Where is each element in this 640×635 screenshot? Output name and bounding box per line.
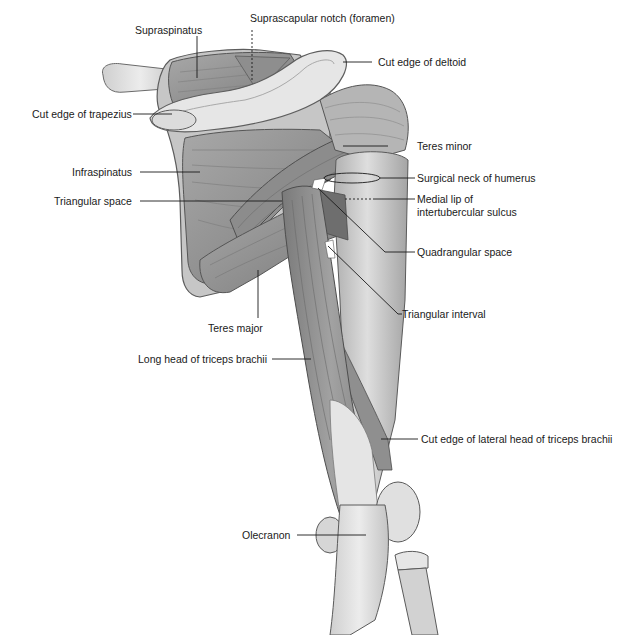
label-medial-lip-line1: Medial lip of [417,193,473,205]
label-infraspinatus: Infraspinatus [72,166,132,178]
label-cut-edge-deltoid: Cut edge of deltoid [378,56,466,68]
label-teres-major: Teres major [208,322,263,334]
label-surgical-neck: Surgical neck of humerus [417,172,535,184]
label-long-head-triceps: Long head of triceps brachii [138,353,267,365]
label-supraspinatus: Supraspinatus [135,24,202,36]
label-cut-edge-lateral-head: Cut edge of lateral head of triceps brac… [421,433,612,445]
label-triangular-interval: Triangular interval [402,308,486,320]
anatomy-illustration [0,0,640,635]
label-quadrangular-space: Quadrangular space [417,246,512,258]
label-cut-edge-trapezius: Cut edge of trapezius [32,108,132,120]
label-teres-minor: Teres minor [417,140,472,152]
label-triangular-space: Triangular space [54,195,132,207]
label-suprascapular-notch: Suprascapular notch (foramen) [250,12,395,24]
label-medial-lip-line2: intertubercular sulcus [417,206,517,218]
elbow-forearm [316,482,438,635]
label-olecranon: Olecranon [242,529,290,541]
